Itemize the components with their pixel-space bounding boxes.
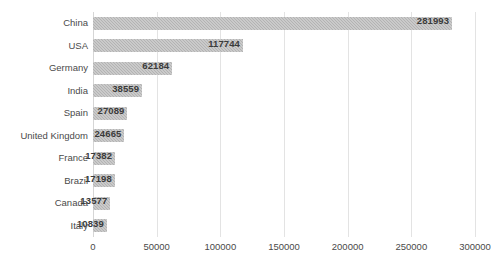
- x-tick-label: 50000: [143, 241, 169, 252]
- x-tick-label: 200000: [332, 241, 364, 252]
- bar-row: 62184: [93, 57, 502, 80]
- category-label: Italy: [0, 215, 88, 238]
- category-label: India: [0, 80, 88, 103]
- bar-chart: 2819931177446218438559270892466517382171…: [0, 0, 502, 273]
- category-label: USA: [0, 35, 88, 58]
- category-label: Brazil: [0, 170, 88, 193]
- bar-value-label: 27089: [98, 105, 128, 116]
- bar-row: 27089: [93, 102, 502, 125]
- category-label: United Kingdom: [0, 125, 88, 148]
- bar-row: 13577: [93, 192, 502, 215]
- bar-row: 117744: [93, 35, 502, 58]
- x-tick-label: 300000: [459, 241, 491, 252]
- bar-row: 10839: [93, 215, 502, 238]
- bar[interactable]: [93, 17, 452, 30]
- bar-value-label: 24665: [94, 128, 124, 139]
- x-tick-label: 100000: [204, 241, 236, 252]
- bar-row: 17198: [93, 170, 502, 193]
- bar-value-label: 17382: [85, 150, 115, 161]
- category-label: China: [0, 12, 88, 35]
- bar-row: 281993: [93, 12, 502, 35]
- x-tick-label: 0: [90, 241, 95, 252]
- category-label: Canada: [0, 192, 88, 215]
- bar-value-label: 38559: [112, 83, 142, 94]
- bar-row: 24665: [93, 125, 502, 148]
- bar-value-label: 281993: [417, 15, 452, 26]
- category-label: Spain: [0, 102, 88, 125]
- category-label: France: [0, 147, 88, 170]
- bar-value-label: 62184: [142, 60, 172, 71]
- x-axis: 050000100000150000200000250000300000: [0, 241, 502, 257]
- bar-row: 38559: [93, 80, 502, 103]
- bar-row: 17382: [93, 147, 502, 170]
- category-axis: ChinaUSAGermanyIndiaSpainUnited KingdomF…: [0, 12, 88, 237]
- bars-layer: 2819931177446218438559270892466517382171…: [93, 12, 502, 237]
- x-tick-label: 150000: [268, 241, 300, 252]
- x-tick-label: 250000: [395, 241, 427, 252]
- category-label: Germany: [0, 57, 88, 80]
- bar-value-label: 17198: [85, 173, 115, 184]
- bar-value-label: 117744: [208, 38, 243, 49]
